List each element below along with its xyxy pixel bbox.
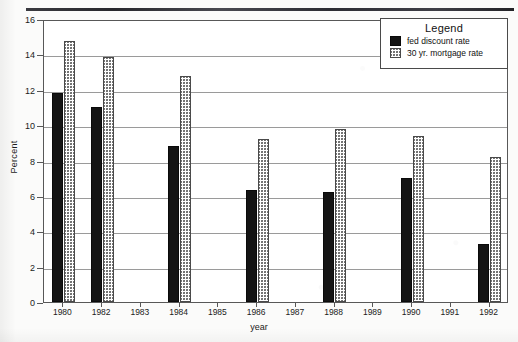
x-axis-tick-label: 1987 bbox=[285, 307, 304, 317]
x-axis-tick-label: 1992 bbox=[479, 307, 498, 317]
x-axis-tick-mark bbox=[489, 303, 490, 307]
x-axis-tick-label: 1985 bbox=[208, 307, 227, 317]
legend-label-fed-discount-rate: fed discount rate bbox=[407, 36, 470, 46]
x-axis-tick-mark bbox=[372, 303, 373, 307]
x-axis-title: year bbox=[0, 322, 518, 332]
legend-title: Legend bbox=[381, 22, 507, 34]
x-axis-tick-label: 1988 bbox=[324, 307, 343, 317]
x-axis-tick-label: 1982 bbox=[92, 307, 111, 317]
x-axis-tick-label: 1980 bbox=[53, 307, 72, 317]
x-axis-tick-mark bbox=[411, 303, 412, 307]
x-axis-tick-label: 1983 bbox=[130, 307, 149, 317]
x-axis-tick-mark bbox=[217, 303, 218, 307]
bar-chart: Percent 0246810121416 198019821983198419… bbox=[0, 0, 518, 342]
x-axis-tick-label: 1984 bbox=[169, 307, 188, 317]
x-axis-tick-mark bbox=[179, 303, 180, 307]
legend-label-mortgage-rate: 30 yr. mortgage rate bbox=[407, 48, 483, 58]
x-axis-tick-mark bbox=[256, 303, 257, 307]
legend-swatch-icon-mortgage-rate bbox=[390, 48, 401, 58]
x-axis-tick-mark bbox=[334, 303, 335, 307]
x-axis-tick-mark bbox=[450, 303, 451, 307]
x-axis-tick-label: 1990 bbox=[402, 307, 421, 317]
x-axis-tick-label: 1986 bbox=[247, 307, 266, 317]
x-axis-tick-mark bbox=[140, 303, 141, 307]
x-axis-tick-mark bbox=[295, 303, 296, 307]
legend-entry-mortgage-rate: 30 yr. mortgage rate bbox=[390, 48, 507, 58]
legend-swatch-icon-fed-discount-rate bbox=[390, 36, 401, 46]
x-axis-tick-mark bbox=[62, 303, 63, 307]
x-axis-tick-label: 1989 bbox=[363, 307, 382, 317]
x-axis-tick-label: 1991 bbox=[440, 307, 459, 317]
legend-entry-fed-discount-rate: fed discount rate bbox=[390, 36, 507, 46]
x-axis-tick-mark bbox=[101, 303, 102, 307]
legend: Legend fed discount rate 30 yr. mortgage… bbox=[380, 18, 508, 69]
